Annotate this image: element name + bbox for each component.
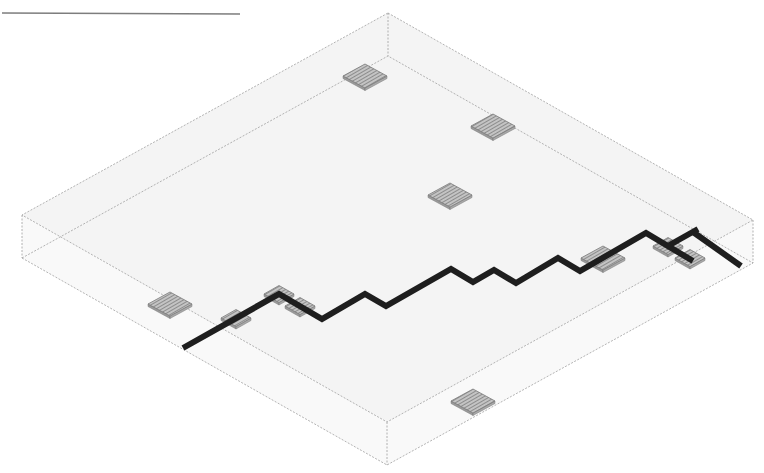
diagram-canvas: Isometric view of a slab with surface pa… [0, 0, 764, 473]
header-rule [2, 13, 240, 14]
slab-top-face [22, 13, 753, 422]
isometric-diagram [0, 0, 764, 473]
slab [22, 13, 753, 465]
